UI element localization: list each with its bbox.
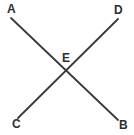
- vertex-label-e: E: [62, 52, 70, 64]
- vertex-label-b: B: [119, 119, 128, 131]
- vertex-label-a: A: [7, 3, 16, 15]
- vertex-label-d: D: [114, 4, 123, 16]
- diagram-svg: [0, 0, 134, 135]
- geometry-diagram-canvas: A D E C B: [0, 0, 134, 135]
- vertex-label-c: C: [12, 118, 21, 130]
